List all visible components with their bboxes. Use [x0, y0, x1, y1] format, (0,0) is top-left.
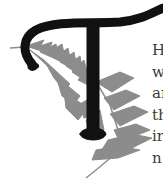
body-text-line: ir	[152, 126, 163, 148]
body-text-line: n	[152, 148, 163, 170]
dropcap-illustration	[0, 0, 163, 181]
dropcap-letter-t	[25, 8, 163, 140]
body-text: H w ar th ir n	[152, 40, 163, 169]
body-text-line: th	[152, 105, 163, 127]
page: H w ar th ir n	[0, 0, 163, 181]
body-text-line: ar	[152, 83, 163, 105]
body-text-line: H	[152, 40, 163, 62]
body-text-line: w	[152, 62, 163, 84]
